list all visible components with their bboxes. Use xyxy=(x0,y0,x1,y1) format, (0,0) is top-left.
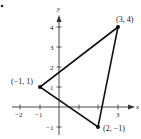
y-tick-label: 4 xyxy=(50,24,54,32)
x-tick-label: 3 xyxy=(116,111,120,119)
vertex-label: (−1, 1) xyxy=(11,77,33,86)
triangle xyxy=(40,27,118,127)
y-tick-label: 2 xyxy=(50,64,54,72)
coordinate-plane: x −2 −1 3 y −1 1 2 3 4 (3, 4) (−1, 1) (2… xyxy=(0,0,141,139)
vertex-label: (3, 4) xyxy=(116,15,134,24)
x-axis-label: x xyxy=(135,103,140,111)
vertex-point xyxy=(96,125,100,129)
y-tick-label: 1 xyxy=(50,84,54,92)
y-axis-arrow-icon xyxy=(57,15,62,22)
vertex-point xyxy=(38,85,42,89)
y-tick-label: −1 xyxy=(46,124,54,132)
y-axis-label: y xyxy=(56,5,61,13)
x-axis-arrow-icon xyxy=(128,105,135,110)
vertex-label: (2, −1) xyxy=(103,124,125,133)
x-tick-label: −2 xyxy=(15,111,23,119)
bullet-marker xyxy=(1,5,4,8)
y-axis: y −1 1 2 3 4 xyxy=(46,5,62,135)
y-tick-label: 3 xyxy=(50,44,54,52)
x-tick-label: −1 xyxy=(35,111,43,119)
vertex-point xyxy=(116,25,120,29)
